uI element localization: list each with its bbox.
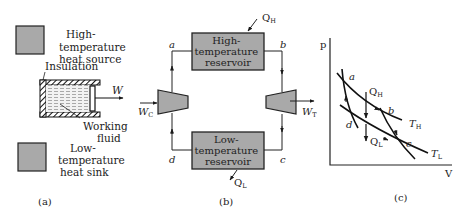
state-b-label-pv: b	[388, 105, 394, 116]
q-low-label-pv: QL	[370, 136, 383, 149]
w-compressor-label: WC	[138, 106, 153, 119]
t-low-label: TL	[431, 148, 443, 161]
t-high-label: TH	[409, 118, 422, 131]
y-axis-label: p	[320, 39, 326, 50]
q-high-arrow	[248, 19, 257, 31]
state-c-label: c	[280, 154, 286, 165]
carnot-cycle-figure: High- temperature heat source Insulation…	[0, 0, 471, 214]
x-axis-label: V	[444, 168, 453, 179]
line-a	[172, 51, 192, 92]
state-d-label-pv: d	[346, 119, 352, 130]
work-label: W	[112, 84, 124, 96]
caption-c: (c)	[394, 192, 408, 203]
state-d-label: d	[169, 154, 175, 165]
panel-a: High- temperature heat source Insulation…	[16, 26, 131, 207]
compressor	[158, 90, 188, 114]
insulation-pointer	[43, 72, 45, 80]
q-high-label: QH	[262, 12, 276, 25]
low-sink-label: Low- temperature heat sink	[58, 142, 128, 178]
state-a-label-pv: a	[349, 71, 355, 82]
w-turbine-label: WT	[302, 106, 317, 119]
line-c	[264, 114, 282, 150]
insulation-label: Insulation	[45, 60, 99, 72]
high-temperature-heat-source	[16, 26, 44, 54]
caption-a: (a)	[38, 196, 52, 207]
line-d	[172, 113, 192, 150]
state-c-label-pv: c	[406, 138, 412, 149]
q-low-label: QL	[234, 177, 247, 190]
state-a-label: a	[169, 39, 175, 50]
piston-cylinder	[40, 80, 123, 117]
panel-b: High- temperature reservoir QH Low- temp…	[138, 12, 317, 207]
working-fluid-label: Working fluid	[83, 120, 131, 144]
adiabat-bc	[380, 108, 415, 159]
panel-c: p V a b c d QH QL TH TL (c)	[320, 38, 453, 203]
line-b	[264, 51, 282, 92]
q-high-label-pv: QH	[369, 86, 383, 99]
piston	[90, 86, 95, 111]
pv-axes	[330, 38, 452, 165]
state-b-label: b	[280, 39, 286, 50]
working-fluid	[46, 85, 90, 112]
low-temperature-heat-sink	[18, 143, 46, 171]
turbine	[266, 90, 296, 114]
caption-b: (b)	[219, 196, 233, 207]
